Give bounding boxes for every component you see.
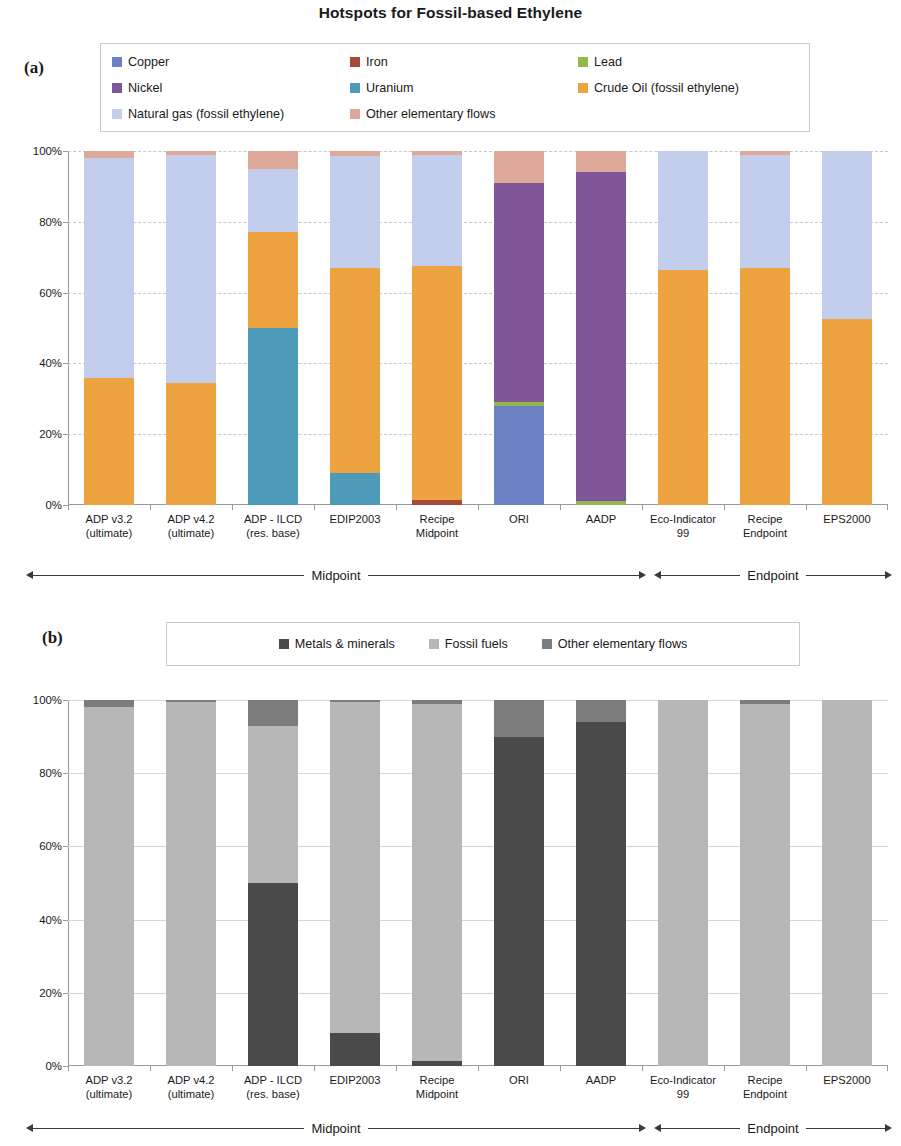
bar-segment[interactable] xyxy=(330,473,381,505)
legend-swatch-icon xyxy=(350,57,360,67)
bar-segment[interactable] xyxy=(822,319,873,505)
category-label: Recipe Midpoint xyxy=(396,512,478,540)
bar-segment[interactable] xyxy=(330,700,381,702)
x-tick-mark xyxy=(478,505,479,510)
legend-label: Other elementary flows xyxy=(366,107,496,121)
bar-segment[interactable] xyxy=(248,151,299,169)
stacked-bar[interactable] xyxy=(330,700,381,1066)
bar-segment[interactable] xyxy=(576,722,627,1066)
range-line xyxy=(806,1128,885,1129)
bar-segment[interactable] xyxy=(658,270,709,505)
bar-segment[interactable] xyxy=(84,700,135,707)
stacked-bar[interactable] xyxy=(740,151,791,505)
bar-segment[interactable] xyxy=(248,232,299,328)
bar-segment[interactable] xyxy=(84,707,135,1066)
bar-segment[interactable] xyxy=(822,700,873,1066)
x-tick-mark xyxy=(150,505,151,510)
y-tick-label: 20% xyxy=(39,428,62,440)
stacked-bar[interactable] xyxy=(494,151,545,505)
stacked-bar[interactable] xyxy=(658,700,709,1066)
bar-segment[interactable] xyxy=(740,704,791,1066)
stacked-bar[interactable] xyxy=(166,700,217,1066)
stacked-bar[interactable] xyxy=(658,151,709,505)
bar-segment[interactable] xyxy=(84,378,135,505)
stacked-bar[interactable] xyxy=(248,700,299,1066)
bar-segment[interactable] xyxy=(494,151,545,183)
legend-label: Other elementary flows xyxy=(558,637,688,651)
bar-segment[interactable] xyxy=(740,151,791,155)
bar-segment[interactable] xyxy=(84,151,135,158)
bar-segment[interactable] xyxy=(412,500,463,505)
bar-segment[interactable] xyxy=(166,151,217,155)
bar-segment[interactable] xyxy=(412,151,463,155)
bar-segment[interactable] xyxy=(248,169,299,233)
bar-segment[interactable] xyxy=(84,158,135,377)
bar-segment[interactable] xyxy=(248,726,299,883)
bar-segment[interactable] xyxy=(330,702,381,1033)
bar-segment[interactable] xyxy=(248,700,299,726)
legend-label: Iron xyxy=(366,55,388,69)
bar-segment[interactable] xyxy=(658,151,709,270)
stacked-bar[interactable] xyxy=(822,700,873,1066)
stacked-bar[interactable] xyxy=(248,151,299,505)
x-tick-mark xyxy=(478,1066,479,1071)
bar-group xyxy=(68,151,888,505)
bar-segment[interactable] xyxy=(658,700,709,1066)
stacked-bar[interactable] xyxy=(166,151,217,505)
stacked-bar[interactable] xyxy=(740,700,791,1066)
bar-segment[interactable] xyxy=(494,183,545,402)
bar-segment[interactable] xyxy=(412,704,463,1061)
x-tick-mark xyxy=(314,1066,315,1071)
bar-segment[interactable] xyxy=(576,151,627,172)
bar-segment[interactable] xyxy=(330,151,381,156)
x-tick-mark xyxy=(560,505,561,510)
stacked-bar[interactable] xyxy=(412,151,463,505)
legend-item: Natural gas (fossil ethylene) xyxy=(112,101,350,127)
bar-segment[interactable] xyxy=(166,700,217,702)
stacked-bar[interactable] xyxy=(576,700,627,1066)
bar-segment[interactable] xyxy=(166,383,217,505)
category-label: AADP xyxy=(560,1073,642,1101)
bar-segment[interactable] xyxy=(166,702,217,1066)
bar-segment[interactable] xyxy=(576,700,627,722)
range-endpoint: Endpoint xyxy=(654,566,892,584)
stacked-bar[interactable] xyxy=(330,151,381,505)
bar-segment[interactable] xyxy=(740,155,791,268)
stacked-bar[interactable] xyxy=(84,151,135,505)
stacked-bar[interactable] xyxy=(84,700,135,1066)
legend-label: Nickel xyxy=(128,81,162,95)
bar-segment[interactable] xyxy=(330,156,381,268)
bar-segment[interactable] xyxy=(822,151,873,319)
bar-segment[interactable] xyxy=(412,700,463,704)
category-label: Recipe Midpoint xyxy=(396,1073,478,1101)
bar-segment[interactable] xyxy=(740,268,791,505)
bar-segment[interactable] xyxy=(576,172,627,501)
bar-segment[interactable] xyxy=(494,406,545,505)
legend-label: Natural gas (fossil ethylene) xyxy=(128,107,284,121)
x-tick-mark xyxy=(642,505,643,510)
bar-segment[interactable] xyxy=(248,883,299,1066)
stacked-bar[interactable] xyxy=(576,151,627,505)
y-tick-label: 80% xyxy=(39,767,62,779)
bar-segment[interactable] xyxy=(740,700,791,704)
bar-segment[interactable] xyxy=(412,1061,463,1066)
category-labels-b: ADP v3.2 (ultimate)ADP v4.2 (ultimate)AD… xyxy=(68,1073,888,1101)
category-label: EPS2000 xyxy=(806,512,888,540)
bar-segment[interactable] xyxy=(576,501,627,505)
bar-segment[interactable] xyxy=(412,155,463,267)
bar-segment[interactable] xyxy=(494,700,545,737)
stacked-bar[interactable] xyxy=(494,700,545,1066)
bar-segment[interactable] xyxy=(248,328,299,505)
stacked-bar[interactable] xyxy=(822,151,873,505)
bar-segment[interactable] xyxy=(330,268,381,473)
bar-segment[interactable] xyxy=(494,737,545,1066)
bar-segment[interactable] xyxy=(494,402,545,406)
y-tick-label: 60% xyxy=(39,840,62,852)
range-line xyxy=(368,575,639,576)
bar-segment[interactable] xyxy=(330,1033,381,1066)
bar-segment[interactable] xyxy=(412,266,463,500)
legend-label: Copper xyxy=(128,55,169,69)
stacked-bar[interactable] xyxy=(412,700,463,1066)
category-labels-a: ADP v3.2 (ultimate)ADP v4.2 (ultimate)AD… xyxy=(68,512,888,540)
bar-segment[interactable] xyxy=(166,155,217,383)
